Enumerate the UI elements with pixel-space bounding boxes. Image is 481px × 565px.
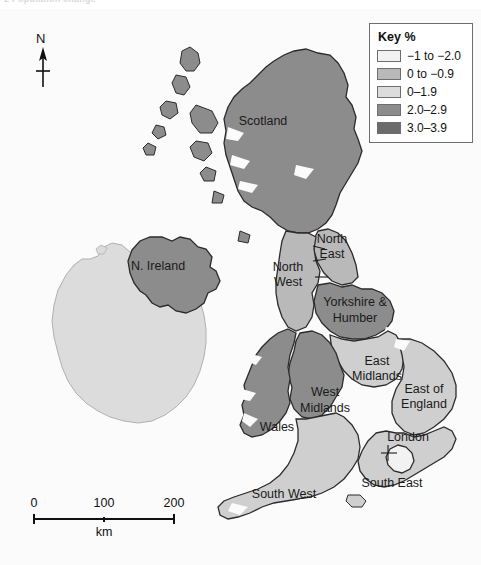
region-label-south-west: South West: [252, 487, 317, 501]
page-caption-strip: 2 Population change: [0, 0, 481, 9]
legend-item-label: 2.0–2.9: [407, 103, 447, 117]
legend-item: 0 to −0.9: [377, 67, 465, 81]
legend-swatch: [377, 86, 401, 98]
scale-bar-cap-end: [173, 514, 175, 524]
region-label-east-of-england-line2: England: [401, 397, 447, 411]
legend-swatch: [377, 68, 401, 80]
region-label-east-midlands-line2: Midlands: [352, 369, 402, 383]
scale-tick-100: 100: [94, 496, 115, 510]
map-legend: Key % −1 to −2.0 0 to −0.9 0–1.9 2.0–2.9…: [369, 23, 473, 143]
caption-ghost-text: 2 Population change: [4, 0, 96, 4]
legend-item: 0–1.9: [377, 85, 465, 99]
legend-item: 2.0–2.9: [377, 103, 465, 117]
legend-item-label: 0 to −0.9: [407, 67, 454, 81]
region-scotland: [143, 47, 362, 243]
region-label-n-ireland: N. Ireland: [131, 259, 185, 273]
scale-tick-200: 200: [164, 496, 185, 510]
region-label-north-east-line1: North: [317, 232, 348, 246]
region-label-yorkshire-line1: Yorkshire &: [323, 295, 387, 309]
map-panel: Scotland N. Ireland North East North Wes…: [0, 9, 481, 565]
region-label-london: London: [387, 430, 429, 444]
scale-bar-cap-start: [33, 514, 35, 524]
region-label-west-midlands-line2: Midlands: [300, 401, 350, 415]
region-label-south-east: South East: [361, 476, 423, 490]
scale-bar-ticks: 0 100 200: [33, 496, 193, 512]
region-label-yorkshire-line2: Humber: [333, 311, 377, 325]
legend-item-label: −1 to −2.0: [407, 49, 461, 63]
legend-item: 3.0–3.9: [377, 121, 465, 135]
region-label-east-of-england-line1: East of: [405, 382, 444, 396]
region-label-wales: Wales: [260, 420, 294, 434]
region-label-west-midlands-line1: West: [311, 385, 340, 399]
region-label-north-east-line2: East: [319, 247, 345, 261]
scale-bar: 0 100 200 km: [33, 496, 193, 544]
north-arrow-label: N: [36, 31, 45, 46]
region-label-east-midlands-line1: East: [364, 354, 390, 368]
region-label-scotland: Scotland: [239, 114, 288, 128]
legend-swatch: [377, 50, 401, 62]
legend-item-label: 0–1.9: [407, 85, 437, 99]
legend-item-label: 3.0–3.9: [407, 121, 447, 135]
legend-swatch: [377, 122, 401, 134]
legend-title: Key %: [378, 30, 465, 44]
region-label-north-west-line1: North: [273, 260, 304, 274]
legend-item: −1 to −2.0: [377, 49, 465, 63]
scale-bar-unit: km: [96, 525, 113, 539]
scale-bar-cap-mid: [103, 517, 105, 522]
scale-bar-graphic: [33, 514, 175, 524]
scale-tick-0: 0: [31, 496, 38, 510]
legend-swatch: [377, 104, 401, 116]
north-arrow: N: [30, 31, 56, 89]
region-label-north-west-line2: West: [274, 275, 303, 289]
